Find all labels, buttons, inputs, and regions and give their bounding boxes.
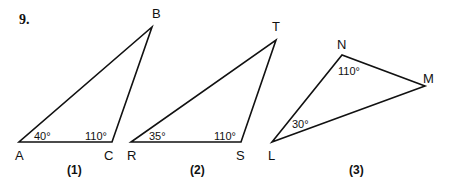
triangle-3-caption: (3) (349, 163, 364, 177)
vertex-label-B: B (152, 6, 161, 21)
triangle-2-shape (131, 40, 276, 142)
triangle-1: A C B 40° 110° (1) (15, 6, 161, 177)
vertex-label-A: A (15, 148, 24, 163)
triangle-3: L N M 30° 110° (3) (268, 37, 434, 177)
triangle-1-caption: (1) (67, 163, 82, 177)
triangle-2-caption: (2) (190, 163, 205, 177)
angle-label-R: 35° (149, 130, 166, 142)
diagram-svg: 9. A C B 40° 110° (1) R S T 35° 110° (2)… (0, 0, 451, 189)
angle-label-N: 110° (338, 65, 360, 77)
vertex-label-M: M (423, 71, 434, 86)
triangles-diagram: 9. A C B 40° 110° (1) R S T 35° 110° (2)… (0, 0, 451, 189)
vertex-label-S: S (236, 148, 245, 163)
triangle-2: R S T 35° 110° (2) (127, 19, 280, 177)
vertex-label-R: R (127, 148, 136, 163)
vertex-label-N: N (337, 37, 346, 52)
vertex-label-L: L (268, 148, 275, 163)
problem-number: 9. (19, 12, 30, 27)
vertex-label-C: C (104, 148, 113, 163)
vertex-label-T: T (272, 19, 280, 34)
triangle-1-shape (19, 27, 152, 142)
angle-label-A: 40° (34, 130, 51, 142)
angle-label-S: 110° (214, 130, 236, 142)
angle-label-L: 30° (292, 118, 309, 130)
angle-label-C: 110° (85, 130, 107, 142)
